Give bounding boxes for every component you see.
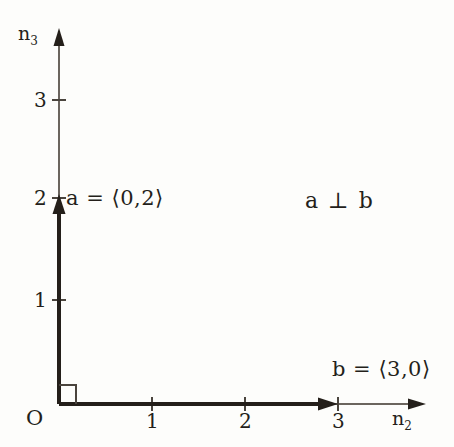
perpendicular-annotation: a ⊥ b: [305, 190, 374, 212]
y-tick-label-3: 3: [34, 90, 47, 110]
vector-diagram-figure: n3 n2 1 2 3 1 2 3 O a = ⟨0,2⟩ b = ⟨3,0⟩ …: [0, 0, 454, 447]
y-tick-label-1: 1: [34, 290, 47, 310]
y-axis-label-subscript: 3: [30, 34, 38, 48]
x-axis-label-subscript: 2: [404, 419, 412, 433]
vector-a-label: a = ⟨0,2⟩: [66, 188, 164, 209]
x-axis-label: n2: [392, 409, 412, 432]
y-axis-label-base: n: [18, 22, 30, 44]
x-tick-label-3: 3: [332, 411, 345, 431]
x-axis-arrowhead: [408, 399, 426, 410]
y-axis-label: n3: [18, 24, 38, 47]
x-tick-label-2: 2: [239, 411, 252, 431]
y-tick-label-2: 2: [34, 188, 47, 208]
x-tick-label-1: 1: [146, 411, 159, 431]
origin-label: O: [26, 408, 43, 429]
y-axis-arrowhead: [54, 28, 65, 46]
right-angle-marker-icon: [59, 385, 76, 404]
vector-b-label: b = ⟨3,0⟩: [332, 359, 431, 380]
x-axis-label-base: n: [392, 407, 404, 429]
